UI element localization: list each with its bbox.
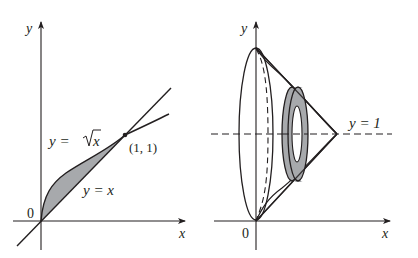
left-panel: y x 0 y = x y = x (1, 1) (13, 21, 186, 250)
washer (282, 87, 308, 182)
figure: y x 0 y = x y = x (1, 1) (0, 0, 418, 258)
sqrt-curve-label: y = x (47, 130, 101, 149)
rotation-axis-label: y = 1 (347, 115, 381, 131)
x-axis-label: x (178, 226, 186, 241)
y-axis-label: y (239, 21, 248, 36)
x-axis-label: x (381, 226, 389, 241)
y-axis-label: y (24, 21, 33, 36)
line-label: y = x (81, 182, 114, 198)
intersection-label: (1, 1) (129, 140, 157, 155)
svg-text:x: x (92, 133, 100, 149)
origin-label: 0 (242, 226, 249, 241)
intersection-point (123, 133, 128, 138)
origin-label: 0 (27, 206, 34, 221)
right-panel: y x 0 y = 1 (211, 21, 392, 250)
line-y-equals-x (17, 88, 171, 246)
curve-sqrt-x (41, 114, 169, 221)
svg-text:y =: y = (47, 133, 73, 149)
